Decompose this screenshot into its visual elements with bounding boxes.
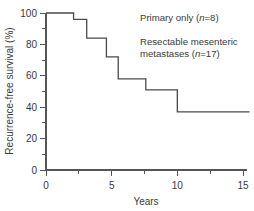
x-axis-minor-ticks (79, 170, 210, 174)
y-tick-label: 80 (26, 39, 38, 50)
survival-curve (46, 13, 250, 112)
y-tick-label: 100 (20, 8, 37, 19)
kaplan-meier-chart: 020406080100 051015 Years Recurrence-fre… (0, 0, 254, 211)
y-axis-tick-labels: 020406080100 (20, 8, 37, 176)
y-axis-minor-ticks (42, 29, 46, 155)
chart-canvas: 020406080100 051015 Years Recurrence-fre… (0, 0, 254, 211)
x-tick-label: 0 (43, 180, 49, 191)
y-tick-label: 0 (31, 165, 37, 176)
x-tick-label: 15 (237, 180, 249, 191)
y-tick-label: 20 (26, 133, 38, 144)
resectable-annotation-line2: metastases (n=17) (140, 48, 220, 59)
y-axis-title: Recurrence-free survival (%) (4, 27, 15, 154)
x-axis-title: Years (133, 196, 158, 207)
y-tick-label: 40 (26, 102, 38, 113)
x-tick-label: 10 (172, 180, 184, 191)
resectable-annotation-line1: Resectable mesenteric (140, 36, 238, 47)
y-tick-label: 60 (26, 70, 38, 81)
x-tick-label: 5 (109, 180, 115, 191)
x-axis-tick-labels: 051015 (43, 180, 249, 191)
primary-only-annotation: Primary only (n=8) (140, 12, 219, 23)
